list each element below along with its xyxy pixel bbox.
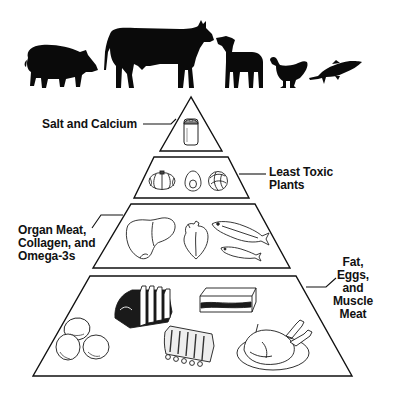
leader-salt bbox=[143, 119, 176, 124]
animal-row bbox=[25, 20, 362, 88]
label-line: Plants bbox=[269, 179, 333, 192]
pig-silhouette-icon bbox=[25, 45, 98, 88]
avocado-icon bbox=[185, 171, 201, 191]
food-pyramid-diagram bbox=[0, 0, 394, 399]
lamb-silhouette-icon bbox=[216, 36, 263, 88]
fat-slab-icon bbox=[200, 288, 256, 312]
salt-shaker-icon bbox=[184, 119, 198, 145]
cabbage-icon bbox=[209, 172, 228, 191]
tier-2-items bbox=[149, 171, 228, 191]
label-line: Meat bbox=[325, 308, 381, 321]
label-salt-calcium: Salt and Calcium bbox=[42, 118, 137, 131]
label-line: Omega-3s bbox=[18, 250, 95, 263]
cow-silhouette-icon bbox=[104, 20, 214, 88]
label-line: Salt and Calcium bbox=[42, 118, 137, 131]
chicken-silhouette-icon bbox=[270, 57, 308, 88]
label-least-toxic-plants: Least Toxic Plants bbox=[269, 166, 333, 192]
fish-silhouette-icon bbox=[309, 60, 362, 84]
label-fat-eggs-muscle: Fat, Eggs, and Muscle Meat bbox=[325, 256, 381, 321]
label-organ-meat: Organ Meat, Collagen, and Omega-3s bbox=[18, 224, 95, 263]
